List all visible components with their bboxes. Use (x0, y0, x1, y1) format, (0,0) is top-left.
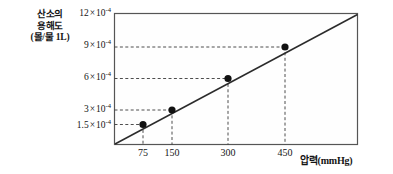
plot-area (0, 0, 393, 174)
solubility-pressure-chart: 산소의 용해도 (몰/물 1L) 12×10-4 9×10-4 6×10-4 3… (0, 0, 393, 174)
data-point-450 (281, 43, 288, 50)
x-tick-label-300: 300 (208, 147, 248, 158)
x-tick-label-450: 450 (265, 147, 305, 158)
data-point-150 (168, 106, 175, 113)
data-point-300 (224, 75, 231, 82)
data-point-75 (139, 121, 146, 128)
x-tick-label-150: 150 (152, 147, 192, 158)
x-axis-label: 압력(mmHg) (300, 152, 353, 167)
